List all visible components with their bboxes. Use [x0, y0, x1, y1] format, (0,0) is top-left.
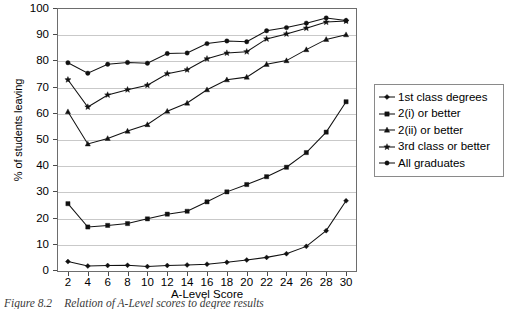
- square-marker-icon: [125, 221, 129, 225]
- x-tick-mark: [167, 272, 168, 276]
- star-marker-icon: [184, 67, 190, 73]
- diamond-marker-icon: [145, 264, 150, 269]
- diamond-marker-icon: [205, 262, 210, 267]
- legend-item[interactable]: 3rd class or better: [378, 139, 500, 156]
- diamond-marker-icon: [165, 263, 170, 268]
- triangle-marker-icon: [65, 109, 70, 114]
- circle-marker-icon: [378, 156, 398, 170]
- series-5: [66, 16, 349, 76]
- x-tick-mark: [227, 272, 228, 276]
- legend-label: 2(i) or better: [398, 108, 461, 120]
- legend-item[interactable]: 2(i) or better: [378, 106, 500, 123]
- star-marker-icon: [378, 140, 398, 154]
- y-tick-label: 70: [0, 81, 49, 93]
- y-tick-mark: [53, 8, 57, 9]
- x-tick-mark: [187, 272, 188, 276]
- circle-marker-icon: [344, 18, 348, 22]
- circle-marker-icon: [304, 21, 308, 25]
- legend-item[interactable]: 1st class degrees: [378, 89, 500, 106]
- series-2: [66, 100, 348, 229]
- circle-marker-icon: [145, 61, 149, 65]
- x-tick-label: 20: [240, 276, 253, 288]
- square-marker-icon: [66, 202, 70, 206]
- x-tick-label: 18: [220, 276, 233, 288]
- figure-caption-text: Relation of A-Level scores to degree res…: [64, 297, 264, 309]
- x-tick-mark: [247, 272, 248, 276]
- x-tick-label: 14: [181, 276, 194, 288]
- y-tick-mark: [53, 60, 57, 61]
- x-tick-label: 24: [280, 276, 293, 288]
- x-tick-mark: [108, 272, 109, 276]
- x-tick-mark: [68, 272, 69, 276]
- triangle-marker-icon: [244, 74, 249, 79]
- star-marker-icon: [124, 86, 130, 92]
- diamond-marker-icon: [105, 263, 110, 268]
- y-tick-mark: [53, 113, 57, 114]
- legend-label: All graduates: [398, 158, 465, 170]
- y-tick-label: 10: [0, 238, 49, 250]
- triangle-marker-icon: [378, 123, 398, 137]
- diamond-marker-icon: [378, 90, 398, 104]
- x-tick-label: 8: [124, 276, 130, 288]
- diamond-marker-icon: [185, 262, 190, 267]
- legend-item[interactable]: 2(ii) or better: [378, 122, 500, 139]
- square-marker-icon: [324, 130, 328, 134]
- square-marker-icon: [225, 190, 229, 194]
- star-marker-icon: [283, 31, 289, 37]
- y-tick-mark: [53, 191, 57, 192]
- x-tick-label: 2: [65, 276, 71, 288]
- square-marker-icon: [378, 107, 398, 121]
- series-3: [65, 32, 348, 146]
- series-layer: [58, 9, 356, 271]
- legend-label: 1st class degrees: [398, 92, 488, 104]
- circle-marker-icon: [105, 62, 109, 66]
- circle-marker-icon: [205, 41, 209, 45]
- y-tick-label: 90: [0, 28, 49, 40]
- diamond-marker-icon: [125, 263, 130, 268]
- x-tick-mark: [128, 272, 129, 276]
- y-tick-mark: [53, 139, 57, 140]
- x-tick-mark: [207, 272, 208, 276]
- diamond-marker-icon: [224, 260, 229, 265]
- diamond-marker-icon: [284, 251, 289, 256]
- circle-marker-icon: [324, 16, 328, 20]
- legend-label: 3rd class or better: [398, 141, 490, 153]
- diamond-marker-icon: [65, 259, 70, 264]
- square-marker-icon: [205, 200, 209, 204]
- legend-label: 2(ii) or better: [398, 125, 463, 137]
- square-marker-icon: [245, 182, 249, 186]
- y-tick-label: 40: [0, 159, 49, 171]
- x-tick-label: 26: [300, 276, 313, 288]
- square-marker-icon: [304, 150, 308, 154]
- figure-caption-number: Figure 8.2: [4, 297, 52, 309]
- triangle-marker-icon: [145, 122, 150, 127]
- x-tick-mark: [88, 272, 89, 276]
- y-tick-label: 100: [0, 2, 49, 14]
- square-marker-icon: [284, 165, 288, 169]
- x-tick-mark: [306, 272, 307, 276]
- x-tick-mark: [346, 272, 347, 276]
- circle-marker-icon: [225, 39, 229, 43]
- diamond-marker-icon: [264, 255, 269, 260]
- x-tick-label: 22: [260, 276, 273, 288]
- x-tick-label: 10: [141, 276, 154, 288]
- circle-marker-icon: [185, 51, 189, 55]
- square-marker-icon: [385, 112, 389, 116]
- star-marker-icon: [224, 50, 230, 56]
- y-tick-mark: [53, 218, 57, 219]
- plot-frame: [57, 8, 357, 272]
- y-tick-mark: [53, 165, 57, 166]
- series-1: [65, 198, 348, 269]
- y-axis-tick-labels: 0102030405060708090100: [0, 8, 52, 272]
- x-tick-mark: [326, 272, 327, 276]
- legend-item[interactable]: All graduates: [378, 155, 500, 172]
- square-marker-icon: [265, 175, 269, 179]
- circle-marker-icon: [125, 60, 129, 64]
- triangle-marker-icon: [284, 58, 289, 63]
- circle-marker-icon: [66, 61, 70, 65]
- diamond-marker-icon: [85, 264, 90, 269]
- figure-caption: Figure 8.2Relation of A-Level scores to …: [4, 297, 434, 309]
- star-marker-icon: [384, 143, 390, 149]
- star-marker-icon: [144, 82, 150, 88]
- circle-marker-icon: [165, 51, 169, 55]
